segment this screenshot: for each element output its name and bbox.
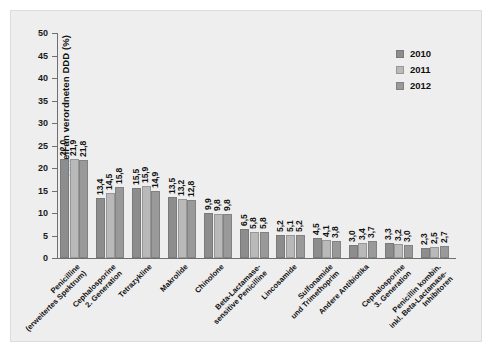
bar[interactable] (276, 235, 285, 258)
y-axis-tick-label: 40 (28, 74, 48, 83)
y-axis-tick-label: 35 (28, 97, 48, 106)
y-axis-tick (52, 123, 57, 124)
bar-value-label: 2,3 (419, 233, 429, 245)
bar-group: 4,54,13,8 (313, 33, 341, 258)
y-axis-tick-label: 0 (28, 254, 48, 263)
bar[interactable] (440, 246, 449, 258)
bar-value-label: 5,2 (275, 220, 285, 232)
y-axis-tick-label: 45 (28, 52, 48, 61)
y-axis-tick-label: 15 (28, 187, 48, 196)
bar-group: 22,021,921,8 (60, 33, 88, 258)
bar-value-label: 21,9 (68, 140, 78, 156)
bar[interactable] (296, 235, 305, 258)
bar[interactable] (168, 197, 177, 258)
bar-value-label: 15,9 (140, 167, 150, 183)
bar[interactable] (349, 245, 358, 259)
bar[interactable] (132, 188, 141, 258)
bar[interactable] (250, 232, 259, 258)
chart-legend: 201020112012 (396, 48, 431, 96)
x-axis-line (57, 258, 456, 259)
y-axis-tick (52, 78, 57, 79)
bar-value-label: 2,5 (429, 232, 439, 244)
bar[interactable] (358, 243, 367, 258)
legend-label: 2012 (410, 80, 431, 91)
bar-value-label: 12,8 (186, 181, 196, 197)
bar[interactable] (421, 248, 430, 258)
bar[interactable] (368, 241, 377, 258)
bar[interactable] (115, 187, 124, 258)
bar-value-label: 3,0 (347, 230, 357, 242)
bar-group: 13,513,212,8 (168, 33, 196, 258)
bar[interactable] (404, 245, 413, 259)
bar[interactable] (240, 229, 249, 258)
bar[interactable] (187, 200, 196, 258)
legend-item-2012[interactable]: 2012 (396, 80, 431, 91)
y-axis-tick (52, 213, 57, 214)
y-axis-tick (52, 236, 57, 237)
legend-label: 2010 (410, 48, 431, 59)
bar-value-label: 15,8 (114, 168, 124, 184)
legend-swatch-icon (396, 82, 404, 90)
bar[interactable] (178, 199, 187, 258)
bar-value-label: 5,8 (258, 217, 268, 229)
bar-value-label: 14,9 (150, 172, 160, 188)
y-axis-tick-label: 5 (28, 232, 48, 241)
bar-value-label: 9,8 (212, 199, 222, 211)
bar-group: 6,55,85,8 (240, 33, 268, 258)
bar[interactable] (385, 243, 394, 258)
bar[interactable] (430, 247, 439, 258)
bar-value-label: 21,8 (78, 141, 88, 157)
y-axis-tick-label: 30 (28, 119, 48, 128)
bar[interactable] (204, 213, 213, 258)
legend-swatch-icon (396, 50, 404, 58)
bar[interactable] (142, 186, 151, 258)
y-axis-tick-label: 25 (28, 142, 48, 151)
y-axis-tick (52, 191, 57, 192)
bar[interactable] (223, 214, 232, 258)
bar-group: 15,515,914,9 (132, 33, 160, 258)
bar-group: 13,414,515,8 (96, 33, 124, 258)
bar[interactable] (394, 244, 403, 258)
bar[interactable] (96, 198, 105, 258)
y-axis-tick (52, 101, 57, 102)
legend-item-2010[interactable]: 2010 (396, 48, 431, 59)
bar[interactable] (70, 159, 79, 258)
bar-value-label: 13,2 (176, 179, 186, 195)
y-axis-tick-label: 10 (28, 209, 48, 218)
chart-figure: Anteil an verordneten DDD (%) 0510152025… (0, 0, 492, 354)
bar-value-label: 14,5 (104, 174, 114, 190)
bar[interactable] (151, 191, 160, 258)
bar[interactable] (313, 238, 322, 258)
bar[interactable] (79, 160, 88, 258)
bar-value-label: 3,7 (366, 227, 376, 239)
bar[interactable] (60, 159, 69, 258)
y-axis-tick-label: 20 (28, 164, 48, 173)
legend-swatch-icon (396, 66, 404, 74)
bar-group: 3,03,43,7 (349, 33, 377, 258)
legend-item-2011[interactable]: 2011 (396, 64, 431, 75)
bar[interactable] (286, 235, 295, 258)
bar-value-label: 5,8 (248, 217, 258, 229)
bar-value-label: 2,7 (439, 231, 449, 243)
y-axis-tick (52, 146, 57, 147)
bar-value-label: 3,8 (330, 226, 340, 238)
bar-group: 5,25,15,2 (276, 33, 304, 258)
bar[interactable] (260, 232, 269, 258)
y-axis-tick (52, 56, 57, 57)
bar-value-label: 3,3 (383, 229, 393, 241)
bar-value-label: 3,0 (402, 230, 412, 242)
bar[interactable] (214, 214, 223, 258)
bar-value-label: 4,5 (311, 223, 321, 235)
bar[interactable] (322, 240, 331, 258)
y-axis-tick-label: 50 (28, 29, 48, 38)
bar-value-label: 9,8 (222, 199, 232, 211)
y-axis-tick (52, 168, 57, 169)
y-axis-tick (52, 33, 57, 34)
bar[interactable] (332, 241, 341, 258)
bar[interactable] (106, 193, 115, 258)
legend-label: 2011 (410, 64, 431, 75)
bar-value-label: 22,0 (58, 140, 68, 156)
y-axis-tick (52, 258, 57, 259)
bar-value-label: 5,2 (294, 220, 304, 232)
bar-group: 9,99,89,8 (204, 33, 232, 258)
